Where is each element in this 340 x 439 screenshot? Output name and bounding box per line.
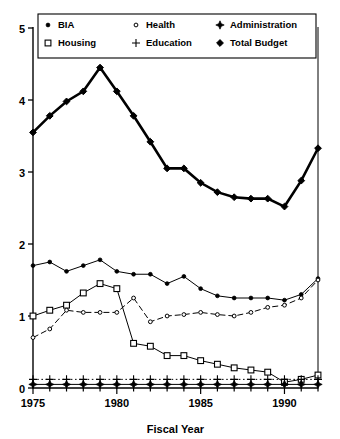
x-axis-title: Fiscal Year xyxy=(147,423,205,435)
x-tick-label: 1985 xyxy=(188,397,212,409)
series-bia xyxy=(31,258,320,302)
x-axis-ticks: 1975198019851990 xyxy=(21,388,318,409)
series-line xyxy=(33,280,318,338)
series-line xyxy=(33,284,318,383)
series-health xyxy=(31,278,320,339)
series-total-budget xyxy=(30,64,322,210)
x-tick-label: 1980 xyxy=(105,397,129,409)
legend: BIAHealthAdministrationHousingEducationT… xyxy=(38,14,316,58)
line-chart: 0123451975198019851990Fiscal YearBIAHeal… xyxy=(0,0,340,439)
x-tick-label: 1975 xyxy=(21,397,45,409)
legend-label: Health xyxy=(146,19,175,30)
series-education xyxy=(29,375,322,383)
series-line xyxy=(33,68,318,207)
series-housing xyxy=(30,281,321,385)
legend-label: BIA xyxy=(58,19,75,30)
y-tick-label: 0 xyxy=(19,383,25,395)
axes xyxy=(33,27,318,388)
chart-container: 0123451975198019851990Fiscal YearBIAHeal… xyxy=(0,0,340,439)
y-tick-label: 2 xyxy=(19,239,25,251)
legend-label: Administration xyxy=(230,19,297,30)
y-tick-label: 4 xyxy=(19,95,26,107)
series-line xyxy=(33,260,318,300)
legend-label: Total Budget xyxy=(230,37,288,48)
legend-label: Education xyxy=(146,37,192,48)
legend-label: Housing xyxy=(58,37,96,48)
y-tick-label: 5 xyxy=(19,23,25,35)
y-tick-label: 1 xyxy=(19,311,25,323)
x-tick-label: 1990 xyxy=(272,397,296,409)
y-tick-label: 3 xyxy=(19,167,25,179)
